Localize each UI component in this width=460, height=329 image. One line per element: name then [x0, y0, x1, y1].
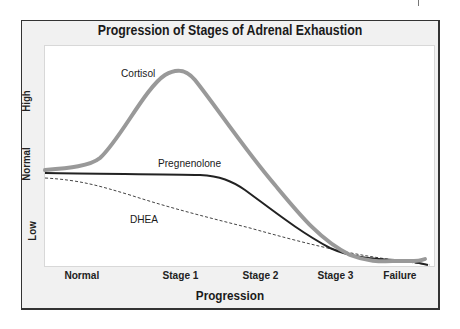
x-tick-normal: Normal — [64, 269, 99, 281]
x-tick-stage-2: Stage 2 — [242, 269, 278, 281]
x-tick-stage-3: Stage 3 — [317, 269, 353, 281]
dhea-label: DHEA — [130, 213, 158, 225]
y-tick-low: Low — [26, 221, 38, 240]
x-tick-stage-1: Stage 1 — [162, 269, 198, 281]
cortisol-curve — [45, 71, 425, 262]
dhea-curve — [45, 178, 430, 265]
x-axis-label: Progression — [23, 288, 437, 303]
y-tick-high: High — [20, 90, 32, 112]
cortisol-label: Cortisol — [121, 67, 155, 79]
x-tick-failure: Failure — [383, 269, 416, 281]
pregnenolone-label: Pregnenolone — [158, 157, 221, 169]
y-tick-normal: Normal — [20, 147, 32, 180]
pregnenolone-curve — [45, 173, 428, 265]
